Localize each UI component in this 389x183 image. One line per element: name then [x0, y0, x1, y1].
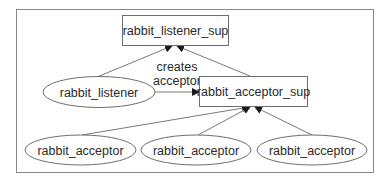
- node-label: rabbit_acceptor_sup: [197, 85, 310, 99]
- node-acceptor-3: rabbit_acceptor: [257, 135, 367, 165]
- node-label: rabbit_listener_sup: [123, 24, 229, 38]
- node-listener-sup: rabbit_listener_sup: [123, 16, 229, 46]
- node-label: rabbit_acceptor: [37, 144, 123, 158]
- node-acceptor-2: rabbit_acceptor: [141, 135, 251, 165]
- node-label: rabbit_listener: [60, 86, 139, 100]
- edge-label-creates: creates: [157, 60, 198, 74]
- node-acceptor-sup: rabbit_acceptor_sup: [197, 77, 310, 107]
- edge-label-acceptor: acceptor: [153, 74, 201, 88]
- node-listener: rabbit_listener: [43, 77, 155, 108]
- node-acceptor-1: rabbit_acceptor: [25, 135, 136, 165]
- node-label: rabbit_acceptor: [269, 144, 355, 158]
- node-label: rabbit_acceptor: [153, 144, 239, 158]
- supervision-tree-diagram: creates acceptor rabbit_listener_sup rab…: [0, 0, 389, 183]
